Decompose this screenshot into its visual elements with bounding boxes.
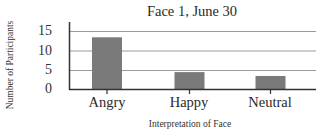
plot-area bbox=[0, 0, 324, 138]
x-tick-label-angry: Angry bbox=[67, 94, 147, 111]
bar-angry bbox=[92, 37, 122, 89]
bar-neutral bbox=[256, 76, 286, 90]
x-tick-label-neutral: Neutral bbox=[230, 94, 310, 111]
x-axis-label: Interpretation of Face bbox=[110, 119, 270, 129]
bar-happy bbox=[175, 72, 205, 89]
x-tick-label-happy: Happy bbox=[149, 94, 229, 111]
